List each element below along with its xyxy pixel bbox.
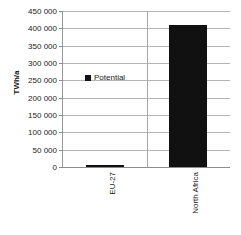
x-axis-label-eu-27: EU-27	[108, 172, 117, 195]
y-axis-tick-label: 200 000	[28, 93, 57, 102]
y-axis-tick-label: 400 000	[28, 24, 57, 33]
y-axis-tick	[59, 132, 63, 133]
y-axis-tick	[59, 98, 63, 99]
y-axis-title: TWh/a	[12, 53, 21, 113]
y-axis-tick-label: 0	[53, 163, 57, 172]
legend-swatch-potential	[85, 75, 91, 81]
y-axis-tick	[59, 28, 63, 29]
plot-area: 050 000100 000150 000200 000250 000300 0…	[62, 11, 229, 167]
y-axis-tick	[59, 11, 63, 12]
y-axis-tick-label: 100 000	[28, 128, 57, 137]
y-gridline	[63, 167, 230, 168]
y-axis-tick	[59, 46, 63, 47]
chart-legend: Potential	[85, 73, 125, 82]
bar-eu-27	[86, 165, 124, 167]
y-axis-tick-label: 250 000	[28, 76, 57, 85]
y-axis-tick	[59, 150, 63, 151]
y-axis-tick-label: 300 000	[28, 59, 57, 68]
y-axis-tick	[59, 115, 63, 116]
legend-label-potential: Potential	[94, 73, 125, 82]
y-axis-tick-label: 450 000	[28, 7, 57, 16]
y-axis-tick-label: 150 000	[28, 111, 57, 120]
x-axis-label-north-africa: North Africa	[191, 172, 200, 214]
y-axis-tick-label: 350 000	[28, 41, 57, 50]
bar-chart: TWh/a 050 000100 000150 000200 000250 00…	[0, 0, 241, 235]
category-divider	[147, 11, 148, 167]
y-axis-tick	[59, 80, 63, 81]
bar-north-africa	[169, 25, 207, 167]
y-axis-tick-label: 50 000	[33, 145, 57, 154]
y-axis-tick	[59, 63, 63, 64]
y-axis-tick	[59, 167, 63, 168]
